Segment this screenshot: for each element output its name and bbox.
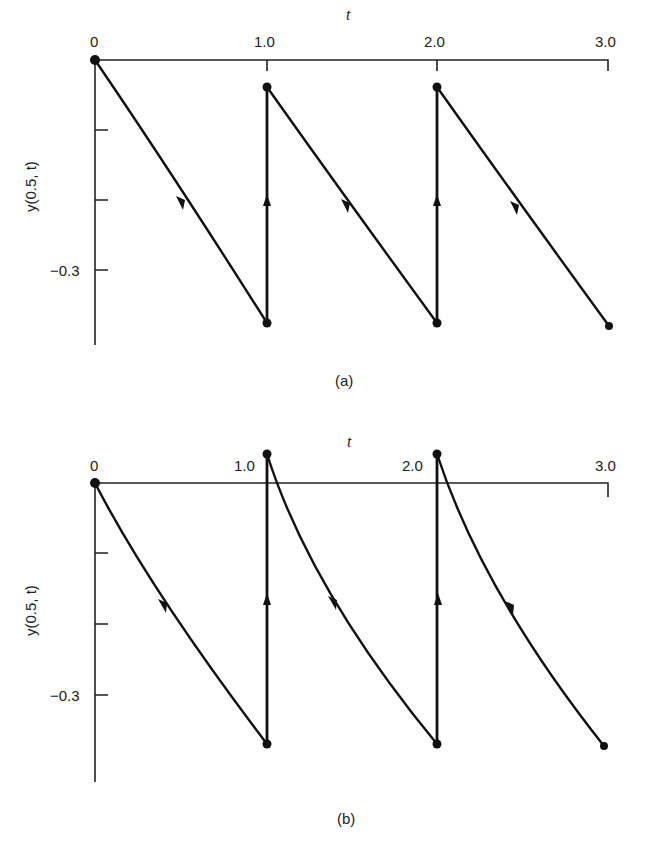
x-tick-label: 1.0 xyxy=(234,457,255,474)
curve-segment xyxy=(437,454,604,746)
arrow-up-icon xyxy=(263,593,271,605)
curve-segment xyxy=(267,87,437,323)
curve-segment xyxy=(95,483,267,744)
data-point xyxy=(90,478,100,488)
y-axis-ticks xyxy=(95,553,108,695)
y-axis-title: y(0.5, t) xyxy=(22,585,39,636)
arrow-down-icon xyxy=(176,196,185,210)
panel-caption: (b) xyxy=(337,810,355,827)
figure: t 0 1.0 2.0 3.0 −0.3 y(0.5, t) (a) xyxy=(0,0,666,847)
x-tick-label: 3.0 xyxy=(595,457,616,474)
data-point xyxy=(433,83,442,92)
y-axis-title: y(0.5, t) xyxy=(22,161,39,212)
x-axis-ticks xyxy=(267,60,437,71)
data-point xyxy=(263,319,272,328)
x-tick-label: 2.0 xyxy=(424,33,445,50)
data-point xyxy=(90,55,100,65)
x-axis-title: t xyxy=(347,433,352,450)
data-point xyxy=(600,742,608,750)
panel-a: t 0 1.0 2.0 3.0 −0.3 y(0.5, t) (a) xyxy=(22,6,616,389)
x-axis-title: t xyxy=(346,6,351,23)
y-tick-label: −0.3 xyxy=(50,687,80,704)
curve-segment xyxy=(95,60,267,323)
arrow-down-icon xyxy=(505,601,514,615)
panel-caption: (a) xyxy=(335,372,353,389)
arrow-down-icon xyxy=(328,596,337,610)
arrow-down-icon xyxy=(510,201,519,215)
x-tick-label: 0 xyxy=(90,33,98,50)
x-tick-label: 1.0 xyxy=(254,33,275,50)
data-point xyxy=(433,319,442,328)
curve-segment xyxy=(437,87,609,326)
data-point xyxy=(263,450,272,459)
x-axis xyxy=(95,483,608,497)
arrow-up-icon xyxy=(263,194,271,206)
panel-b: t 0 1.0 2.0 3.0 −0.3 y(0.5, t) (b) xyxy=(22,433,616,827)
arrow-up-icon xyxy=(433,194,441,206)
data-point xyxy=(263,83,272,92)
data-point xyxy=(263,740,272,749)
data-point xyxy=(433,740,442,749)
x-tick-label: 2.0 xyxy=(402,457,423,474)
curve-segment xyxy=(267,454,437,744)
data-point xyxy=(605,322,613,330)
data-point xyxy=(433,450,442,459)
y-axis-ticks xyxy=(95,130,108,270)
x-tick-label: 3.0 xyxy=(595,33,616,50)
arrow-up-icon xyxy=(434,593,442,605)
x-tick-label: 0 xyxy=(90,457,98,474)
x-axis xyxy=(95,60,608,71)
y-tick-label: −0.3 xyxy=(50,262,80,279)
